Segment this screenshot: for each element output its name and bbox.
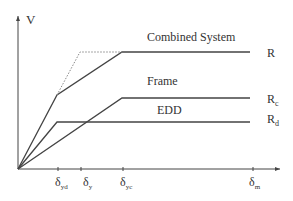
tick-delta-m: δm <box>249 175 261 191</box>
rd-label: Rd <box>267 112 279 128</box>
tick-delta-yd: δyd <box>55 175 68 191</box>
r-label: R <box>267 46 275 60</box>
rc-label: Rc <box>267 92 279 108</box>
combined-system-curve <box>18 52 250 169</box>
force-displacement-diagram: V Combined System R Frame Rc EDD Rd δyd … <box>0 0 293 201</box>
frame-curve <box>18 98 250 169</box>
frame-label: Frame <box>147 74 178 88</box>
combined-system-label: Combined System <box>147 30 236 44</box>
tick-delta-y: δy <box>83 175 93 191</box>
tick-delta-yc: δyc <box>120 175 132 191</box>
y-axis-label: V <box>26 12 36 27</box>
edd-label: EDD <box>157 103 182 117</box>
